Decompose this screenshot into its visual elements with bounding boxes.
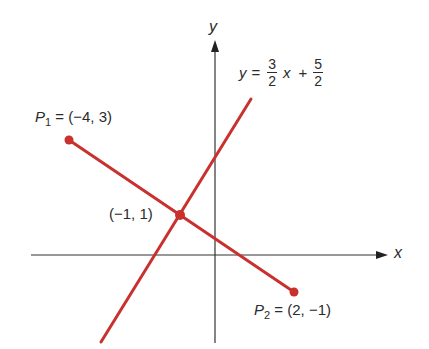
slope-numerator: 3 bbox=[267, 57, 277, 73]
intercept-fraction: 5 2 bbox=[313, 57, 323, 88]
equation-equals: = bbox=[252, 64, 261, 81]
point-intersection bbox=[175, 210, 185, 220]
point-p1-label: P1 = (−4, 3) bbox=[35, 108, 112, 125]
p1-name: P bbox=[35, 108, 45, 125]
intercept-denominator: 2 bbox=[314, 73, 322, 88]
equation-variable: x bbox=[283, 64, 291, 81]
x-axis-arrow-icon bbox=[376, 251, 388, 259]
p1-subscript: 1 bbox=[45, 116, 51, 128]
point-p1 bbox=[65, 136, 74, 145]
equation-lhs: y bbox=[239, 64, 247, 81]
y-axis-arrow-icon bbox=[211, 40, 219, 52]
p2-name: P bbox=[254, 301, 264, 318]
point-p2-label: P2 = (2, −1) bbox=[254, 301, 331, 318]
intersection-label: (−1, 1) bbox=[109, 205, 153, 222]
p1-coordinates: = (−4, 3) bbox=[55, 108, 112, 125]
point-p2 bbox=[290, 288, 299, 297]
slope-denominator: 2 bbox=[268, 73, 276, 88]
y-axis-label: y bbox=[209, 18, 217, 36]
p2-coordinates: = (2, −1) bbox=[274, 301, 331, 318]
equation-plus: + bbox=[299, 64, 308, 81]
line-equation-label: y = 3 2 x + 5 2 bbox=[239, 57, 325, 88]
slope-fraction: 3 2 bbox=[267, 57, 277, 88]
x-axis-label: x bbox=[394, 244, 402, 262]
p2-subscript: 2 bbox=[264, 309, 270, 321]
coordinate-plot bbox=[0, 0, 429, 349]
intercept-numerator: 5 bbox=[313, 57, 323, 73]
